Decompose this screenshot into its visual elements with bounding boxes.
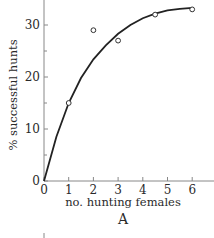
panel-label: A xyxy=(117,211,129,227)
data-point xyxy=(66,101,71,106)
data-point xyxy=(153,12,158,17)
data-points xyxy=(66,7,194,105)
x-axis-title: no. hunting females xyxy=(65,195,181,209)
chart: 0102030 0123456 % successful hunts no. h… xyxy=(0,0,214,238)
data-point xyxy=(190,7,195,12)
y-tick-label: 30 xyxy=(25,18,40,32)
data-point xyxy=(91,28,96,33)
data-point xyxy=(116,38,121,43)
y-tick-label: 10 xyxy=(25,122,40,136)
x-ticks: 0123456 xyxy=(40,177,196,197)
y-tick-label: 0 xyxy=(32,174,40,188)
x-tick-label: 6 xyxy=(188,183,196,197)
fitted-curve xyxy=(44,8,192,181)
y-ticks: 0102030 xyxy=(25,0,48,188)
x-tick-label: 0 xyxy=(40,183,48,197)
y-tick-label: 20 xyxy=(25,70,40,84)
y-axis-title: % successful hunts xyxy=(6,39,20,150)
